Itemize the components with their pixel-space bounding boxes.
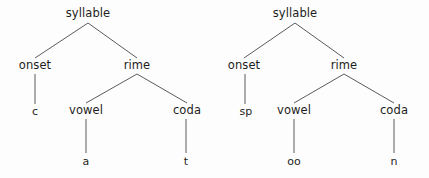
tree-node-onset: onset xyxy=(19,60,51,72)
tree-edge-syllable-to-rime xyxy=(88,23,137,58)
tree-edge-syllable-to-rime xyxy=(295,23,344,58)
tree-node-onset: onset xyxy=(228,60,260,72)
tree-node-syllable: syllable xyxy=(273,8,318,20)
tree-edge-rime-to-coda xyxy=(137,74,187,103)
tree-edges-layer xyxy=(0,0,429,178)
tree-edge-syllable-to-onset xyxy=(244,23,295,58)
tree-node-coda-seg: t xyxy=(184,156,188,167)
tree-node-coda-seg: n xyxy=(390,156,397,167)
tree-node-vowel: vowel xyxy=(277,105,311,117)
tree-node-coda: coda xyxy=(380,105,408,117)
tree-node-onset-seg: c xyxy=(32,106,38,117)
tree-node-rime: rime xyxy=(124,60,151,72)
tree-edge-syllable-to-onset xyxy=(35,23,88,58)
tree-node-onset-seg: sp xyxy=(240,106,253,117)
syllable-tree-figure: syllableonsetrimecvowelcodaatsyllableons… xyxy=(0,0,429,178)
tree-edge-rime-to-vowel xyxy=(294,74,344,103)
tree-edge-rime-to-coda xyxy=(344,74,394,103)
tree-edge-rime-to-vowel xyxy=(86,74,137,103)
tree-node-vowel: vowel xyxy=(69,105,103,117)
tree-node-rime: rime xyxy=(331,60,358,72)
tree-node-coda: coda xyxy=(173,105,201,117)
tree-node-vowel-seg: oo xyxy=(287,156,301,167)
tree-node-vowel-seg: a xyxy=(83,156,90,167)
tree-node-syllable: syllable xyxy=(66,8,111,20)
